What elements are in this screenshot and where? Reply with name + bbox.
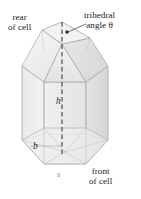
honeycomb-cell-figure: rear of cell trihedral angle θ front of …	[0, 0, 141, 199]
label-rear-of-cell: rear of cell	[8, 12, 31, 33]
label-height-h: h	[56, 96, 61, 106]
label-trihedral-line2: angle θ	[84, 20, 115, 30]
label-trihedral-angle: trihedral angle θ	[84, 10, 115, 31]
trihedral-angle-point	[65, 30, 68, 33]
label-front-of-cell: front of cell	[89, 166, 112, 187]
label-side-s: s	[57, 170, 60, 179]
label-front-line1: front	[89, 166, 112, 176]
label-front-line2: of cell	[89, 176, 112, 186]
label-base-edge-b: b	[33, 141, 38, 151]
label-rear-line2: of cell	[8, 22, 31, 32]
label-rear-line1: rear	[8, 12, 31, 22]
label-trihedral-line1: trihedral	[84, 10, 115, 20]
